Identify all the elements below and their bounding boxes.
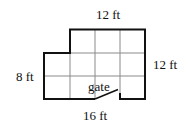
top-dimension-label: 12 ft [96,8,120,21]
gate-label: gate [88,80,110,93]
left-dimension-label: 8 ft [16,70,34,83]
bottom-dimension-label: 16 ft [83,109,107,122]
right-dimension-label: 12 ft [153,58,177,71]
